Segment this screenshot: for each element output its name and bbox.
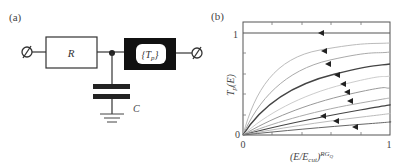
ground-icon bbox=[100, 114, 124, 122]
x-axis-label: (E/Ecut)RGQ bbox=[290, 150, 334, 164]
left-terminal-icon bbox=[22, 46, 32, 58]
right-terminal-icon bbox=[192, 47, 202, 59]
panel-a-label: (a) bbox=[9, 11, 22, 24]
capacitor-plate-top bbox=[93, 84, 130, 89]
xtick-1: 1 bbox=[387, 139, 392, 150]
ytick-0: 0 bbox=[235, 129, 240, 140]
y-axis-label: Tp(E) bbox=[225, 73, 238, 96]
resistor-label: R bbox=[67, 47, 75, 59]
capacitor-label: C bbox=[133, 103, 140, 114]
xtick-0: 0 bbox=[241, 139, 246, 150]
figure: (a) R {Tp} C (b) bbox=[0, 0, 403, 168]
ytick-1: 1 bbox=[233, 29, 238, 40]
capacitor-plate-bottom bbox=[93, 94, 130, 99]
panel-b-label: (b) bbox=[211, 10, 224, 23]
plot-area bbox=[243, 22, 391, 135]
